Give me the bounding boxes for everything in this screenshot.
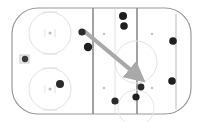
player-puck-carrier [78,28,85,35]
faceoff-dot-neutral-lower [103,87,106,90]
hockey-rink-diagram [0,0,197,122]
faceoff-dot-right-upper [151,33,154,36]
faceoff-dot-right-lower [151,87,154,90]
rink-canvas [0,0,197,122]
faceoff-dot-lower-left [49,88,52,91]
faceoff-dot-upper-left [49,32,52,35]
ice-surface [12,8,191,114]
player-target-a [138,84,145,91]
faceoff-dot-neutral-upper [103,33,106,36]
player-right-upper [169,37,177,45]
player-support-left [84,43,92,51]
player-neutral-top-a [119,12,127,20]
player-left-zone [56,80,64,88]
player-neutral-top-b [120,22,128,30]
goalie-marker [22,56,28,62]
player-target-b [132,93,139,100]
player-right-lower [168,77,176,85]
player-low-slot [111,97,118,104]
